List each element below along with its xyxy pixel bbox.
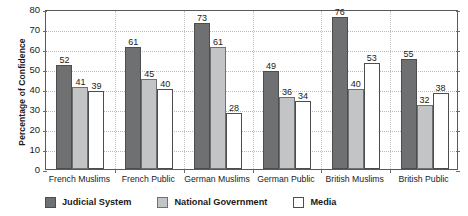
gridline bbox=[46, 51, 457, 52]
bar-value-label: 53 bbox=[367, 54, 377, 63]
y-axis-tick-mark bbox=[43, 91, 47, 92]
legend-item[interactable]: Judicial System bbox=[45, 197, 131, 208]
group-separator bbox=[115, 11, 116, 169]
bar-value-label: 28 bbox=[229, 104, 239, 113]
bar: 40 bbox=[348, 89, 364, 169]
bar-value-label: 34 bbox=[298, 92, 308, 101]
white-swatch bbox=[293, 197, 304, 208]
x-axis-category-labels: French MuslimsFrench PublicGerman Muslim… bbox=[45, 174, 458, 188]
y-axis-tick-mark-right bbox=[456, 51, 460, 52]
gridline bbox=[46, 111, 457, 112]
bar: 40 bbox=[157, 89, 173, 169]
bar: 32 bbox=[417, 105, 433, 169]
gridline bbox=[46, 71, 457, 72]
bar: 41 bbox=[72, 87, 88, 169]
x-axis-category-label: French Muslims bbox=[49, 174, 110, 184]
y-axis-tick-labels: 01020304050607080 bbox=[20, 10, 40, 170]
y-axis-tick-mark-right bbox=[456, 11, 460, 12]
y-axis-tick-mark bbox=[43, 71, 47, 72]
group-separator bbox=[253, 11, 254, 169]
y-axis-tick-label: 40 bbox=[20, 85, 40, 95]
bar-value-label: 39 bbox=[91, 82, 101, 91]
bar: 76 bbox=[332, 17, 348, 169]
x-axis-tick-mark bbox=[184, 169, 185, 173]
bar: 34 bbox=[295, 101, 311, 169]
bar-value-label: 61 bbox=[213, 38, 223, 47]
y-axis-tick-label: 30 bbox=[20, 105, 40, 115]
y-axis-tick-mark bbox=[43, 151, 47, 152]
bar-value-label: 61 bbox=[128, 38, 138, 47]
x-axis-tick-mark bbox=[321, 169, 322, 173]
bar: 49 bbox=[263, 71, 279, 169]
y-axis-tick-mark-right bbox=[456, 131, 460, 132]
x-axis-category-label: British Muslims bbox=[326, 174, 384, 184]
bar-value-label: 49 bbox=[266, 62, 276, 71]
gridline bbox=[46, 151, 457, 152]
bar: 28 bbox=[226, 113, 242, 169]
bar-value-label: 55 bbox=[404, 50, 414, 59]
y-axis-tick-mark bbox=[43, 11, 47, 12]
y-axis-tick-mark-right bbox=[456, 151, 460, 152]
y-axis-tick-mark-right bbox=[456, 171, 460, 172]
bar-value-label: 52 bbox=[59, 56, 69, 65]
bar: 52 bbox=[56, 65, 72, 169]
x-axis-category-label: French Public bbox=[122, 174, 175, 184]
y-axis-tick-label: 60 bbox=[20, 45, 40, 55]
bar: 55 bbox=[401, 59, 417, 169]
bar-value-label: 41 bbox=[75, 78, 85, 87]
gridline bbox=[46, 131, 457, 132]
bar: 39 bbox=[88, 91, 104, 169]
x-axis-category-label: German Muslims bbox=[184, 174, 250, 184]
chart-legend: Judicial SystemNational GovernmentMedia bbox=[45, 193, 458, 211]
y-axis-tick-mark-right bbox=[456, 91, 460, 92]
x-axis-tick-mark bbox=[115, 169, 116, 173]
bar-value-label: 32 bbox=[420, 96, 430, 105]
x-axis-tick-mark bbox=[390, 169, 391, 173]
bar-value-label: 40 bbox=[351, 80, 361, 89]
light-gray-swatch bbox=[157, 197, 168, 208]
y-axis-tick-label: 80 bbox=[20, 5, 40, 15]
y-axis-tick-mark-right bbox=[456, 71, 460, 72]
bar: 45 bbox=[141, 79, 157, 169]
dark-gray-swatch bbox=[45, 197, 56, 208]
x-axis-tick-mark bbox=[253, 169, 254, 173]
bar-value-label: 40 bbox=[160, 80, 170, 89]
gridline bbox=[46, 91, 457, 92]
legend-item-label: National Government bbox=[174, 197, 267, 207]
group-separator bbox=[321, 11, 322, 169]
y-axis-tick-label: 10 bbox=[20, 145, 40, 155]
y-axis-tick-mark bbox=[43, 131, 47, 132]
plot-area: 524139614540736128493634764053553238 bbox=[45, 10, 458, 170]
group-separator bbox=[184, 11, 185, 169]
bar: 73 bbox=[194, 23, 210, 169]
bar-value-label: 76 bbox=[335, 8, 345, 17]
y-axis-tick-mark bbox=[43, 51, 47, 52]
bar: 38 bbox=[433, 93, 449, 169]
y-axis-tick-mark bbox=[43, 171, 47, 172]
bar-chart: Percentage of Confidence 010203040506070… bbox=[0, 0, 468, 216]
gridline bbox=[46, 31, 457, 32]
bar-value-label: 38 bbox=[436, 84, 446, 93]
bar-value-label: 45 bbox=[144, 70, 154, 79]
bar: 61 bbox=[125, 47, 141, 169]
y-axis-tick-label: 0 bbox=[20, 165, 40, 175]
bar-value-label: 36 bbox=[282, 88, 292, 97]
legend-item[interactable]: Media bbox=[293, 197, 336, 208]
bar: 61 bbox=[210, 47, 226, 169]
legend-item-label: Judicial System bbox=[62, 197, 131, 207]
x-axis-category-label: German Public bbox=[257, 174, 314, 184]
y-axis-tick-label: 70 bbox=[20, 25, 40, 35]
y-axis-tick-mark-right bbox=[456, 31, 460, 32]
y-axis-tick-label: 20 bbox=[20, 125, 40, 135]
legend-item[interactable]: National Government bbox=[157, 197, 267, 208]
bar: 36 bbox=[279, 97, 295, 169]
bar-value-label: 73 bbox=[197, 14, 207, 23]
group-separator bbox=[390, 11, 391, 169]
y-axis-tick-label: 50 bbox=[20, 65, 40, 75]
y-axis-tick-mark-right bbox=[456, 111, 460, 112]
legend-item-label: Media bbox=[310, 197, 336, 207]
x-axis-category-label: British Public bbox=[398, 174, 448, 184]
y-axis-tick-mark bbox=[43, 111, 47, 112]
bar: 53 bbox=[364, 63, 380, 169]
y-axis-tick-mark bbox=[43, 31, 47, 32]
